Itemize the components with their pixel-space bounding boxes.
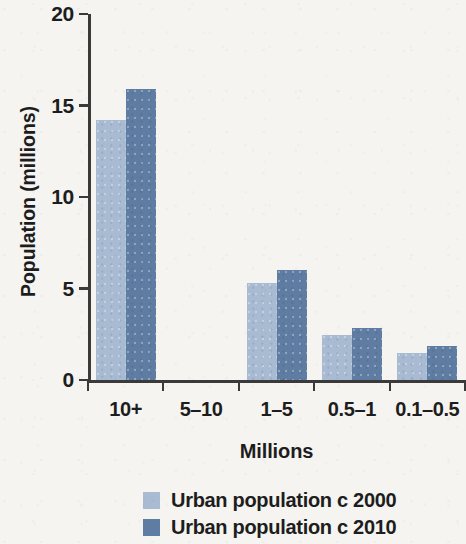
legend-item: Urban population c 2000 bbox=[143, 487, 396, 514]
y-tick-label: 0 bbox=[63, 368, 74, 392]
x-tick-mark bbox=[313, 380, 315, 391]
x-tick-label: 0.5–1 bbox=[328, 398, 376, 421]
bar-s2000-0 bbox=[96, 120, 126, 380]
bar-s2010-2 bbox=[277, 270, 307, 380]
y-tick-mark bbox=[79, 287, 88, 289]
legend-label: Urban population c 2000 bbox=[171, 489, 396, 512]
legend-swatch-icon bbox=[143, 492, 160, 509]
legend-item: Urban population c 2010 bbox=[143, 514, 396, 541]
x-tick-mark bbox=[87, 380, 89, 391]
bar-s2000-3 bbox=[322, 335, 352, 380]
y-tick-label: 10 bbox=[51, 185, 74, 209]
y-tick-label: 15 bbox=[51, 93, 74, 117]
x-tick-label: 10+ bbox=[109, 398, 142, 421]
x-tick-mark bbox=[389, 380, 391, 391]
legend-label: Urban population c 2010 bbox=[171, 516, 396, 539]
y-axis-line bbox=[88, 14, 91, 380]
bar-s2000-2 bbox=[247, 283, 277, 380]
bar-s2010-0 bbox=[126, 89, 156, 380]
bar-s2010-3 bbox=[352, 328, 382, 380]
x-tick-mark bbox=[162, 380, 164, 391]
x-axis-title: Millions bbox=[88, 440, 465, 463]
y-tick-label: 5 bbox=[63, 276, 74, 300]
y-axis-title: Population (millions) bbox=[17, 52, 40, 352]
y-tick-mark bbox=[79, 196, 88, 198]
bar-s2010-4 bbox=[427, 346, 457, 380]
x-tick-label: 5–10 bbox=[180, 398, 223, 421]
x-tick-label: 0.1–0.5 bbox=[395, 398, 459, 421]
legend-swatch-icon bbox=[143, 519, 160, 536]
chart-legend: Urban population c 2000Urban population … bbox=[143, 487, 396, 541]
x-axis-line bbox=[88, 380, 465, 383]
bar-s2000-4 bbox=[397, 353, 427, 380]
plot-area: 05101520 10+5–101–50.5–10.1–0.5 bbox=[88, 14, 465, 380]
y-tick-label: 20 bbox=[51, 2, 74, 26]
x-tick-mark bbox=[238, 380, 240, 391]
x-tick-label: 1–5 bbox=[260, 398, 292, 421]
y-tick-mark bbox=[79, 104, 88, 106]
y-tick-mark bbox=[79, 13, 88, 15]
